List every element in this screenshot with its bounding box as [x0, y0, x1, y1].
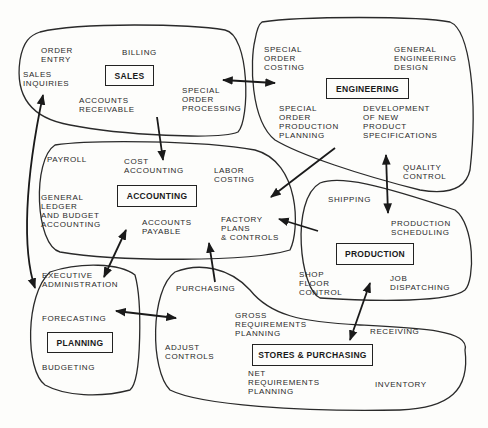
- accounting-title-box: ACCOUNTING: [117, 185, 197, 207]
- engineering-title-box: ENGINEERING: [326, 78, 409, 99]
- accounting-function-accounts-payable: ACCOUNTS PAYABLE: [142, 218, 192, 236]
- sales-function-special-order-processing: SPECIAL ORDER PROCESSING: [182, 86, 241, 113]
- production-function-shipping: SHIPPING: [328, 195, 371, 204]
- accounting-function-cost-accounting: COST ACCOUNTING: [124, 157, 184, 175]
- engineering-function-special-order-costing: SPECIAL ORDER COSTING: [264, 45, 305, 72]
- production-function-shop-floor-control: SHOP FLOOR CONTROL: [299, 270, 342, 297]
- production-function-production-scheduling: PRODUCTION SCHEDULING: [391, 219, 451, 237]
- planning-title-box: PLANNING: [47, 332, 113, 353]
- arrow-stores-accounting: [209, 243, 215, 282]
- stores-purchasing-title-box: STORES & PURCHASING: [252, 344, 373, 366]
- stores-function-purchasing: PURCHASING: [176, 284, 235, 293]
- stores-function-receiving: RECEIVING: [370, 327, 419, 336]
- arrow-sales-planning: [27, 95, 43, 288]
- stores-function-adjust-controls: ADJUST CONTROLS: [165, 343, 214, 361]
- planning-function-budgeting: BUDGETING: [42, 363, 95, 372]
- arrow-production-accounting: [279, 219, 318, 231]
- sales-title-box: SALES: [105, 65, 154, 86]
- arrow-sales-accounting: [157, 117, 163, 160]
- stores-function-gross-requirements-planning: GROSS REQUIREMENTS PLANNING: [235, 311, 307, 338]
- sales-function-accounts-receivable: ACCOUNTS RECEIVABLE: [79, 96, 135, 114]
- arrow-sales-engineering: [223, 80, 275, 83]
- engineering-function-quality-control: QUALITY CONTROL: [403, 163, 446, 181]
- engineering-function-development-new-product-specs: DEVELOPMENT OF NEW PRODUCT SPECIFICATION…: [363, 104, 437, 140]
- production-title-box: PRODUCTION: [336, 243, 414, 265]
- arrow-engineering-accounting: [271, 148, 335, 197]
- sales-function-sales-inquiries: SALES INQUIRIES: [23, 70, 69, 88]
- stores-function-net-requirements-planning: NET REQUIREMENTS PLANNING: [248, 369, 320, 396]
- stores-function-inventory: INVENTORY: [375, 380, 427, 389]
- sales-function-order-entry: ORDER ENTRY: [41, 46, 73, 64]
- arrow-planning-stores: [116, 311, 176, 318]
- production-function-job-dispatching: JOB DISPATCHING: [390, 274, 450, 292]
- arrow-engineering-production: [386, 155, 388, 213]
- diagram-canvas: SALES ORDER ENTRY BILLING SALES INQUIRIE…: [0, 0, 488, 428]
- arrow-stores-production: [350, 283, 370, 340]
- arrow-accounting-planning: [104, 230, 126, 277]
- engineering-function-special-order-production-planning: SPECIAL ORDER PRODUCTION PLANNING: [279, 104, 339, 140]
- engineering-function-general-engineering-design: GENERAL ENGINEERING DESIGN: [394, 45, 457, 72]
- planning-function-executive-administration: EXECUTIVE ADMINISTRATION: [42, 271, 118, 289]
- accounting-function-payroll: PAYROLL: [47, 155, 87, 164]
- accounting-function-labor-costing: LABOR COSTING: [214, 166, 255, 184]
- accounting-function-general-ledger: GENERAL LEDGER AND BUDGET ACCOUNTING: [41, 193, 101, 229]
- planning-function-forecasting: FORECASTING: [42, 314, 106, 323]
- accounting-function-factory-plans-controls: FACTORY PLANS & CONTROLS: [221, 215, 279, 242]
- sales-function-billing: BILLING: [122, 48, 157, 57]
